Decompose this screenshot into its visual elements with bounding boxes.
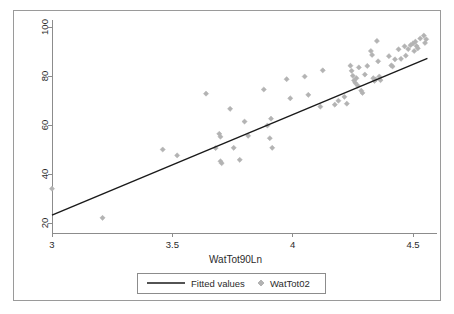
data-point	[261, 87, 266, 92]
data-point	[306, 92, 311, 97]
data-point	[396, 47, 401, 52]
x-axis-title: WatTot90Ln	[209, 254, 262, 265]
data-point	[376, 59, 381, 64]
data-point	[392, 57, 397, 62]
data-point	[231, 145, 236, 150]
x-tick-label: 4	[290, 239, 295, 250]
data-point	[332, 102, 337, 107]
data-point	[227, 106, 232, 111]
data-point	[344, 101, 349, 106]
data-point	[288, 96, 293, 101]
data-point	[203, 91, 208, 96]
data-point	[398, 56, 403, 61]
data-point	[348, 63, 353, 68]
data-point	[237, 157, 242, 162]
y-tick-label: 60	[39, 120, 50, 131]
data-point	[49, 186, 54, 191]
data-point	[267, 136, 272, 141]
x-tick-label: 3.5	[166, 239, 179, 250]
y-tick-label: 20	[39, 218, 50, 229]
fitted-values-line	[52, 58, 427, 215]
data-point	[386, 54, 391, 59]
x-tick-label: 4.5	[406, 239, 419, 250]
legend-item-wattot02[interactable]: WatTot02	[270, 278, 310, 289]
data-point	[342, 94, 347, 99]
legend[interactable]: Fitted valuesWatTot02	[137, 273, 325, 293]
data-point	[268, 116, 273, 121]
data-point	[356, 65, 361, 70]
axes	[48, 20, 437, 237]
tick-labels-layer: 2040608010033.544.5WatTot90Ln	[39, 19, 420, 265]
data-point	[302, 74, 307, 79]
y-tick-label: 40	[39, 169, 50, 180]
scatter-plot: 2040608010033.544.5WatTot90Ln Fitted val…	[0, 0, 454, 314]
data-point	[365, 63, 370, 68]
data-point	[362, 72, 367, 77]
data-point	[270, 145, 275, 150]
data-point	[318, 104, 323, 109]
data-point	[403, 53, 408, 58]
data-point	[242, 119, 247, 124]
x-tick-label: 3	[49, 239, 54, 250]
data-point	[349, 68, 354, 73]
y-tick-label: 80	[39, 71, 50, 82]
data-point	[374, 38, 379, 43]
data-point	[284, 77, 289, 82]
data-point	[160, 147, 165, 152]
figure-container: 2040608010033.544.5WatTot90Ln Fitted val…	[0, 0, 454, 314]
data-point	[336, 98, 341, 103]
data-point	[320, 68, 325, 73]
data-point	[175, 153, 180, 158]
legend-item-fitted-values[interactable]: Fitted values	[191, 278, 245, 289]
data-point	[100, 215, 105, 220]
fitted-line-layer	[52, 58, 427, 215]
y-tick-label: 100	[39, 19, 50, 35]
